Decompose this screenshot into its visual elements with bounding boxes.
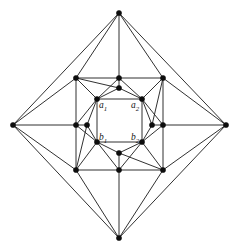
graph-vertex (160, 167, 165, 172)
graph-edge (97, 142, 119, 170)
graph-vertex (116, 75, 121, 80)
graph-vertex (139, 96, 144, 101)
vertex-label-subscript: 2 (136, 105, 139, 112)
edge-layer (13, 13, 226, 238)
graph-edge (119, 142, 142, 170)
graph-edge (76, 78, 97, 99)
graph-edge (87, 125, 97, 142)
vertex-label-b1: b1 (99, 133, 107, 145)
graph-edge (119, 88, 142, 99)
graph-edge (13, 125, 76, 170)
graph-vertex (116, 150, 121, 155)
graph-vertex (10, 122, 15, 127)
graph-edge (119, 170, 163, 238)
graph-edge (13, 78, 76, 125)
vertex-label-subscript: 1 (104, 137, 107, 144)
graph-svg (0, 0, 239, 251)
graph-vertex (116, 235, 121, 240)
vertex-label-b2: b2 (131, 133, 139, 145)
graph-vertex (149, 122, 154, 127)
graph-edge (163, 125, 226, 170)
graph-edge (163, 78, 226, 125)
graph-edge (142, 125, 152, 142)
graph-vertex (160, 122, 165, 127)
graph-edge (76, 99, 97, 125)
graph-edge (97, 88, 119, 99)
graph-vertex (139, 139, 144, 144)
vertex-layer (10, 10, 228, 240)
graph-edge (76, 13, 119, 78)
graph-edge (119, 78, 142, 99)
vertex-label-subscript: 2 (136, 137, 139, 144)
graph-vertex (84, 122, 89, 127)
graph-vertex (116, 167, 121, 172)
graph-edge (87, 99, 97, 125)
graph-vertex (116, 10, 121, 15)
vertex-label-subscript: 1 (104, 105, 107, 112)
graph-vertex (73, 122, 78, 127)
graph-edge (119, 13, 163, 78)
vertex-label-a2: a2 (131, 101, 139, 113)
graph-edge (76, 78, 119, 88)
graph-vertex (223, 122, 228, 127)
vertex-label-a1: a1 (99, 101, 107, 113)
graph-vertex (73, 75, 78, 80)
graph-edge (142, 78, 163, 99)
graph-edge (76, 170, 119, 238)
graph-vertex (116, 85, 121, 90)
graph-edge (142, 99, 152, 125)
graph-edge (97, 78, 119, 99)
graph-diagram-canvas: a1a2b1b2 (0, 0, 239, 251)
graph-vertex (73, 167, 78, 172)
graph-vertex (160, 75, 165, 80)
